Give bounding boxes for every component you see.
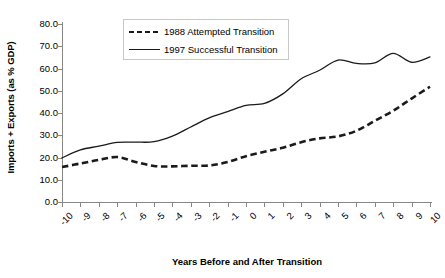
x-tick-mark (375, 202, 376, 207)
x-tick-label: 7 (376, 210, 388, 222)
x-tick-label: 9 (413, 210, 425, 222)
y-tick-label: 60.0 (22, 64, 58, 74)
x-tick-mark (99, 202, 100, 207)
y-tick-label: 50.0 (22, 86, 58, 96)
x-tick-mark (320, 202, 321, 207)
x-tick-label: -9 (79, 210, 93, 224)
x-tick-mark (264, 202, 265, 207)
x-tick-label: -5 (153, 210, 167, 224)
x-tick-label: -6 (135, 210, 149, 224)
x-tick-label: -4 (171, 210, 185, 224)
x-tick-mark (301, 202, 302, 207)
y-axis-title: Imports + Exports (as % GDP) (0, 0, 20, 215)
x-tick-label: 6 (358, 210, 370, 222)
x-tick-label: -8 (98, 210, 112, 224)
y-axis-title-text: Imports + Exports (as % GDP) (5, 41, 16, 173)
x-tick-mark (62, 202, 63, 207)
x-tick-mark (412, 202, 413, 207)
x-tick-label: 3 (302, 210, 314, 222)
x-tick-label: 8 (394, 210, 406, 222)
x-tick-label: 2 (284, 210, 296, 222)
y-tick-label: 70.0 (22, 41, 58, 51)
x-tick-mark (172, 202, 173, 207)
legend-item-1: 1997 Successful Transition (128, 41, 278, 58)
x-tick-mark (283, 202, 284, 207)
x-tick-mark (338, 202, 339, 207)
legend-item-1-label: 1997 Successful Transition (164, 45, 278, 55)
series-line-1 (62, 53, 430, 158)
y-tick-label: 30.0 (22, 130, 58, 140)
x-tick-mark (80, 202, 81, 207)
x-tick-label: -1 (227, 210, 241, 224)
x-tick-label: -10 (57, 210, 74, 227)
x-tick-mark (136, 202, 137, 207)
legend-item-0: 1988 Attempted Transition (128, 23, 274, 40)
y-tick-label: 0.0 (22, 197, 58, 207)
x-tick-mark (117, 202, 118, 207)
x-tick-mark (154, 202, 155, 207)
legend-item-0-label: 1988 Attempted Transition (164, 27, 274, 37)
x-axis-title: Years Before and After Transition (62, 256, 432, 267)
y-tick-label: 10.0 (22, 175, 58, 185)
x-tick-mark (356, 202, 357, 207)
x-tick-mark (246, 202, 247, 207)
x-tick-mark (393, 202, 394, 207)
x-tick-label: -2 (208, 210, 222, 224)
x-tick-label: 5 (339, 210, 351, 222)
x-tick-mark (191, 202, 192, 207)
y-tick-label: 40.0 (22, 108, 58, 118)
x-tick-label: 4 (321, 210, 333, 222)
x-tick-mark (209, 202, 210, 207)
x-tick-label: 0 (247, 210, 259, 222)
x-tick-label: -7 (116, 210, 130, 224)
y-tick-label: 20.0 (22, 153, 58, 163)
x-tick-mark (228, 202, 229, 207)
x-tick-label: 1 (266, 210, 278, 222)
legend-solid-line-icon (128, 45, 161, 55)
y-axis-tick-labels: 80.070.060.050.040.030.020.010.00.0 (20, 0, 58, 215)
y-tick-label: 80.0 (22, 19, 58, 29)
series-line-0 (62, 87, 430, 167)
chart-container: Imports + Exports (as % GDP) 80.070.060.… (0, 0, 445, 278)
legend-dashed-line-icon (128, 27, 161, 37)
chart-legend: 1988 Attempted Transition 1997 Successfu… (123, 19, 289, 60)
x-tick-mark (430, 202, 431, 207)
x-tick-label: -3 (190, 210, 204, 224)
x-tick-label: 10 (428, 210, 443, 225)
